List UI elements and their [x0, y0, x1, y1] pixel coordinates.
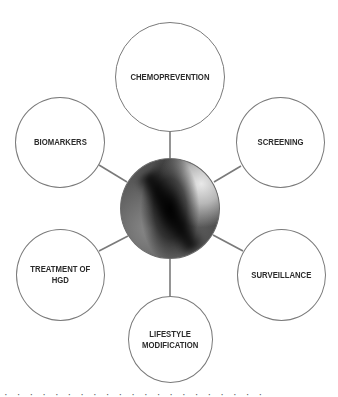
node-treatment-of-hgd: TREATMENT OF HGD — [16, 229, 105, 321]
hub-endoscopy-image — [120, 158, 220, 259]
node-label: BIOMARKERS — [34, 137, 87, 148]
connector-treatment-of-hgd — [99, 236, 128, 251]
node-label: SCREENING — [258, 137, 304, 148]
node-chemoprevention: CHEMOPREVENTION — [115, 22, 225, 132]
node-biomarkers: BIOMARKERS — [15, 97, 105, 188]
node-surveillance: SURVEILLANCE — [237, 229, 326, 321]
node-lifestyle-modification: LIFESTYLE MODIFICATION — [128, 296, 213, 383]
connector-biomarkers — [99, 165, 127, 182]
node-label: CHEMOPREVENTION — [130, 72, 209, 83]
node-label: LIFESTYLE MODIFICATION — [142, 329, 198, 351]
node-label: TREATMENT OF HGD — [30, 264, 90, 286]
connector-surveillance — [213, 235, 243, 251]
hub-image-shading — [135, 166, 207, 257]
connector-screening — [214, 166, 241, 182]
node-label: SURVEILLANCE — [251, 270, 311, 281]
cropped-caption: · · · · · · · · · · · · · · · · · · · · … — [4, 389, 334, 397]
hub-and-spoke-diagram: CHEMOPREVENTION BIOMARKERS SCREENING TRE… — [0, 0, 338, 397]
node-screening: SCREENING — [236, 97, 325, 188]
